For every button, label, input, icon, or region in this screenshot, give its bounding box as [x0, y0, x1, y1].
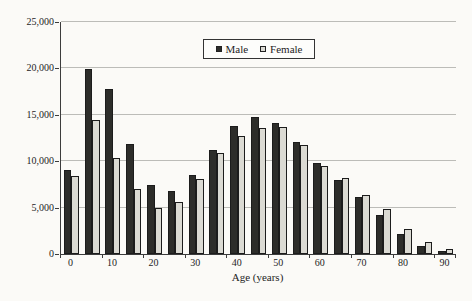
bar-female-age-30 [196, 179, 204, 254]
bar-male-age-40 [230, 126, 238, 254]
y-axis-label-5000: 5,000 [0, 202, 54, 214]
bar-female-age-5 [92, 120, 100, 254]
y-axis-tick [55, 68, 59, 69]
x-axis-label-10: 10 [97, 257, 127, 269]
legend-item-male: Male [216, 43, 249, 55]
y-axis-tick [55, 22, 59, 23]
male-swatch-icon [216, 46, 222, 52]
gridline-25000 [61, 21, 456, 22]
x-axis-label-60: 60 [305, 257, 335, 269]
bar-male-age-90 [438, 251, 446, 254]
y-axis-label-15000: 15,000 [0, 109, 54, 121]
bar-male-age-25 [168, 191, 176, 254]
x-axis-label-70: 70 [346, 257, 376, 269]
x-axis-label-30: 30 [180, 257, 210, 269]
bar-male-age-10 [105, 89, 113, 254]
bar-male-age-70 [355, 197, 363, 254]
bar-female-age-50 [279, 127, 287, 254]
x-axis-label-40: 40 [222, 257, 252, 269]
bar-female-age-25 [175, 202, 183, 254]
legend-label-female: Female [270, 43, 302, 55]
bar-male-age-80 [397, 234, 405, 254]
bar-male-age-85 [417, 246, 425, 254]
x-axis-label-0: 0 [55, 257, 85, 269]
bar-female-age-0 [71, 176, 79, 254]
bar-female-age-15 [134, 189, 142, 254]
y-axis-label-25000: 25,000 [0, 16, 54, 28]
bar-female-age-10 [113, 158, 121, 254]
bar-female-age-45 [259, 128, 267, 254]
bar-male-age-5 [85, 69, 93, 254]
x-axis-title: Age (years) [60, 271, 455, 284]
y-axis-tick [55, 208, 59, 209]
bar-female-age-75 [383, 209, 391, 254]
bar-male-age-75 [376, 215, 384, 254]
bar-male-age-30 [189, 175, 197, 254]
y-axis-tick [55, 161, 59, 162]
legend-label-male: Male [226, 43, 249, 55]
x-axis-label-80: 80 [388, 257, 418, 269]
gridline-15000 [61, 114, 456, 115]
bar-female-age-90 [446, 249, 454, 254]
y-axis-tick [55, 254, 59, 255]
gridline-20000 [61, 67, 456, 68]
x-axis-label-90: 90 [430, 257, 460, 269]
bar-female-age-80 [404, 229, 412, 254]
bar-female-age-60 [321, 166, 329, 254]
bar-male-age-20 [147, 185, 155, 254]
legend-item-female: Female [260, 43, 302, 55]
bar-male-age-0 [64, 170, 72, 254]
x-axis-label-50: 50 [263, 257, 293, 269]
legend: Male Female [203, 39, 315, 59]
bar-male-age-55 [293, 142, 301, 254]
female-swatch-icon [260, 46, 266, 52]
y-axis-label-20000: 20,000 [0, 62, 54, 74]
y-axis-label-10000: 10,000 [0, 155, 54, 167]
bar-male-age-65 [334, 180, 342, 254]
bar-female-age-20 [155, 208, 163, 254]
y-axis-label-0: 0 [0, 248, 54, 260]
x-axis-label-20: 20 [139, 257, 169, 269]
bar-female-age-40 [238, 136, 246, 254]
bar-male-age-15 [126, 144, 134, 254]
bar-male-age-60 [313, 163, 321, 254]
population-bar-chart: Male Female Age (years) 05,00010,00015,0… [0, 0, 472, 301]
bar-female-age-55 [300, 145, 308, 254]
y-axis-tick [55, 115, 59, 116]
bar-male-age-50 [272, 123, 280, 254]
bar-female-age-85 [425, 242, 433, 254]
bar-female-age-65 [342, 178, 350, 254]
bar-male-age-35 [209, 150, 217, 254]
bar-female-age-35 [217, 153, 225, 254]
bar-male-age-45 [251, 117, 259, 254]
bar-female-age-70 [362, 195, 370, 254]
